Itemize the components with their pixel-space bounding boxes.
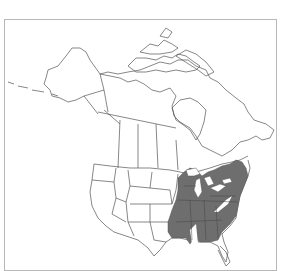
- us-state-lines: [92, 168, 178, 242]
- province-lines: [84, 90, 178, 170]
- arctic-islands: [128, 28, 214, 76]
- aleutian-islands: [8, 82, 58, 96]
- florida-outline: [218, 246, 230, 266]
- species-range: [168, 160, 248, 244]
- canada-outline: [100, 60, 274, 156]
- alaska-outline: [44, 48, 104, 102]
